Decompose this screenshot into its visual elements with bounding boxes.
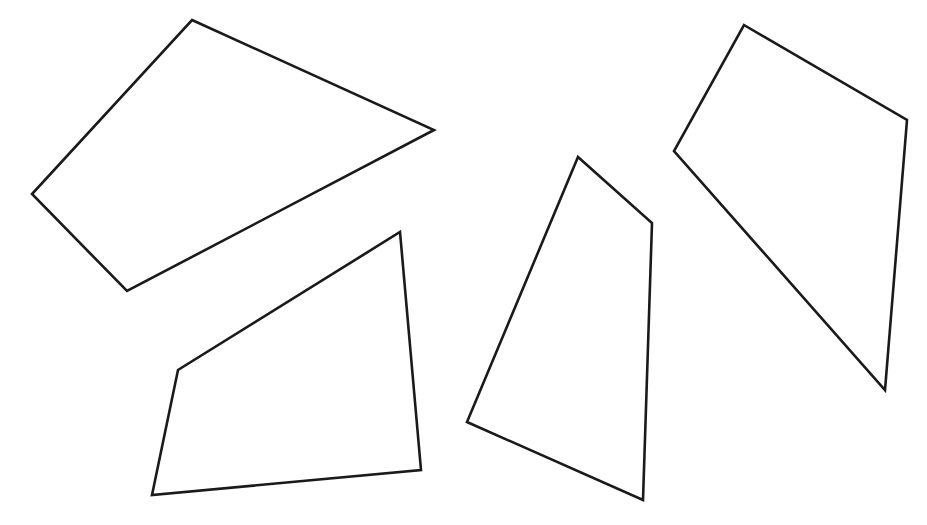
shapes-svg — [0, 0, 927, 525]
quadrilateral-right — [674, 25, 907, 390]
quadrilateral-bottom-left — [152, 232, 421, 495]
drawing-canvas — [0, 0, 927, 525]
quadrilateral-center — [467, 157, 652, 500]
